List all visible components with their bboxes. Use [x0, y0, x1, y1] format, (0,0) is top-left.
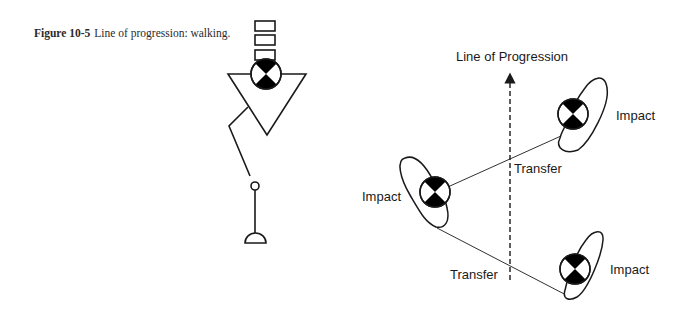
impact-label-top-right: Impact [616, 108, 655, 123]
segment-block-2 [255, 35, 275, 45]
impact-marker-icon [560, 254, 590, 284]
stick-figure [228, 21, 306, 243]
line-of-progression-label: Line of Progression [456, 49, 568, 64]
foot-semicircle [245, 233, 266, 243]
impact-label-left: Impact [362, 189, 401, 204]
knee-joint [251, 182, 259, 190]
impact-marker-icon [420, 177, 450, 207]
center-of-mass-icon [251, 59, 281, 89]
transfer-label-lower: Transfer [450, 267, 499, 282]
footprint-left [400, 157, 450, 227]
segment-block-1 [255, 21, 275, 31]
impact-marker-icon [558, 99, 588, 129]
transfer-label-upper: Transfer [514, 161, 563, 176]
transfer-line-lower [437, 228, 570, 297]
gait-diagram: Line of Progression Impact Impact [0, 0, 689, 312]
thigh-line [229, 107, 250, 176]
footprint-top-right [558, 78, 607, 152]
footprint-bottom-right [560, 232, 603, 299]
impact-label-bottom-right: Impact [610, 262, 649, 277]
